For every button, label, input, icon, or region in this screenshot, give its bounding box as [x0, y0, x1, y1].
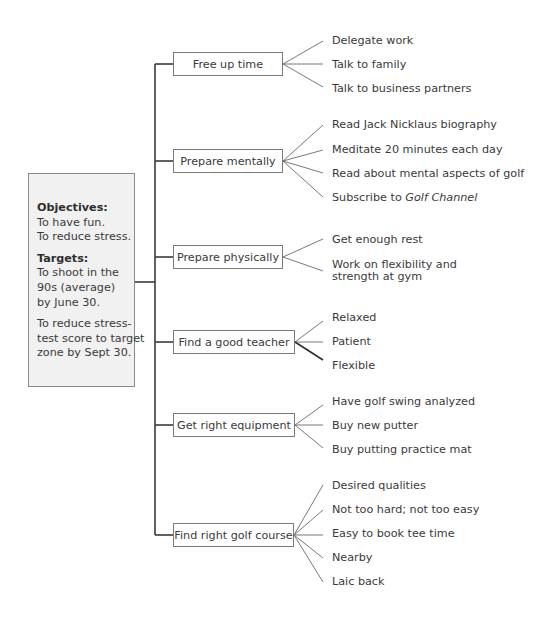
objectives-targets-box: Objectives: To have fun. To reduce stres… [28, 173, 135, 387]
leaf-item: Delegate work [332, 34, 413, 47]
target-line: 90s (average) [37, 281, 134, 296]
leaf-item-continued: strength at gym [332, 270, 422, 283]
branch-node-find-good-teacher: Find a good teacher [173, 330, 295, 354]
targets-heading: Targets: [37, 252, 134, 267]
branch-node-prepare-physically: Prepare physically [173, 245, 283, 269]
golf-goal-tree-diagram: Objectives: To have fun. To reduce stres… [0, 0, 536, 617]
leaf-item: Nearby [332, 551, 372, 564]
target-line: zone by Sept 30. [37, 346, 134, 361]
objectives-heading: Objectives: [37, 201, 134, 216]
leaf-item: Talk to family [332, 58, 406, 71]
leaf-italic-text: Golf Channel [405, 191, 477, 204]
leaf-item: Meditate 20 minutes each day [332, 143, 503, 156]
target-line: test score to target [37, 332, 134, 347]
branch-node-get-right-equipment: Get right equipment [173, 413, 295, 437]
leaf-item: Flexible [332, 359, 375, 372]
leaf-item: Easy to book tee time [332, 527, 455, 540]
leaf-item: Talk to business partners [332, 82, 471, 95]
leaf-item: Buy putting practice mat [332, 443, 472, 456]
leaf-item: Relaxed [332, 311, 376, 324]
leaf-item: Desired qualities [332, 479, 426, 492]
target-line: To shoot in the [37, 266, 134, 281]
target-line: To reduce stress- [37, 317, 134, 332]
leaf-text: Subscribe to [332, 191, 405, 204]
leaf-item: Not too hard; not too easy [332, 503, 479, 516]
objective-item: To reduce stress. [37, 230, 134, 245]
leaf-item: Have golf swing analyzed [332, 395, 475, 408]
branch-node-find-right-golf-course: Find right golf course [173, 523, 294, 547]
leaf-item: Patient [332, 335, 371, 348]
objective-item: To have fun. [37, 216, 134, 231]
leaf-item: Get enough rest [332, 233, 423, 246]
leaf-item: Read Jack Nicklaus biography [332, 118, 497, 131]
branch-node-free-up-time: Free up time [173, 52, 283, 76]
branch-node-prepare-mentally: Prepare mentally [173, 149, 283, 173]
target-line: by June 30. [37, 296, 134, 311]
leaf-item: Read about mental aspects of golf [332, 167, 524, 180]
leaf-item: Laic back [332, 575, 385, 588]
leaf-item: Buy new putter [332, 419, 418, 432]
leaf-item-subscribe: Subscribe to Golf Channel [332, 191, 477, 204]
